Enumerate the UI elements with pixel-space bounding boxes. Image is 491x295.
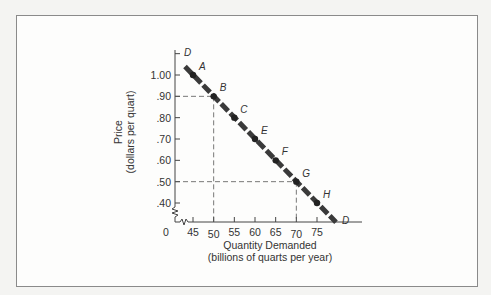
y-axis-break-icon xyxy=(172,188,178,222)
x-axis-break-icon xyxy=(175,219,188,225)
x-origin-label: 0 xyxy=(163,226,169,238)
y-tick-label: .90 xyxy=(156,90,171,102)
x-tick-label: 50 xyxy=(208,228,220,240)
y-tick-label: .70 xyxy=(156,133,171,145)
data-points: ABCEFGH xyxy=(190,61,331,206)
x-axis-title: Quantity Demanded xyxy=(223,239,317,251)
x-tick-label: 65 xyxy=(270,226,282,238)
data-point xyxy=(314,200,320,206)
x-ticks: 45505560657075 xyxy=(187,217,323,240)
x-tick-label: 75 xyxy=(311,226,323,238)
data-point xyxy=(210,93,216,99)
point-label: H xyxy=(323,189,331,200)
curve-label-end: D xyxy=(342,215,349,226)
curve-label-start: D xyxy=(184,47,191,58)
data-point xyxy=(252,136,258,142)
point-label: B xyxy=(220,82,227,93)
data-point xyxy=(272,157,278,163)
x-tick-label: 55 xyxy=(228,226,240,238)
y-ticks: 1.00.90.80.70.60.50.40 xyxy=(151,54,180,209)
point-label: G xyxy=(302,168,310,179)
y-tick-label: .60 xyxy=(156,154,171,166)
point-label: F xyxy=(282,146,289,157)
y-tick-label: .80 xyxy=(156,112,171,124)
demand-curve-chart: 1.00.90.80.70.60.50.40 45505560657075 DD… xyxy=(0,0,491,295)
x-axis-subtitle: (billions of quarts per year) xyxy=(208,251,332,263)
y-tick-label: .40 xyxy=(156,197,171,209)
data-point xyxy=(231,114,237,120)
y-tick-label: .50 xyxy=(156,176,171,188)
y-axis-title: Price xyxy=(112,120,124,144)
point-label: E xyxy=(261,125,268,136)
point-label: A xyxy=(198,61,206,72)
y-axis-subtitle: (dollars per quart) xyxy=(124,91,136,174)
data-point xyxy=(190,72,196,78)
data-point xyxy=(293,178,299,184)
point-label: C xyxy=(240,104,248,115)
demand-line xyxy=(185,66,336,222)
x-tick-label: 45 xyxy=(187,226,199,238)
x-tick-label: 60 xyxy=(249,226,261,238)
y-tick-label: 1.00 xyxy=(151,69,172,81)
